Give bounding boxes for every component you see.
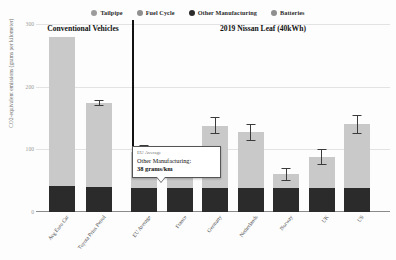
circle-marker-icon [137,10,143,16]
error-bar [353,115,362,134]
bar-segment [344,124,370,188]
bar-column[interactable] [344,124,370,212]
bar-column[interactable] [167,174,193,212]
bar-segment [49,37,75,186]
bar-segment [86,187,112,212]
bar-segment [344,188,370,212]
error-bar [317,149,326,165]
legend-item-other-manufacturing[interactable]: Other Manufacturing [189,9,257,16]
circle-marker-icon [271,10,277,16]
x-tick-label: Netherlands [237,214,258,238]
bar-segment [167,188,193,212]
legend-item-batteries[interactable]: Batteries [271,9,305,16]
y-tick-100: 100 [22,146,34,152]
bars-layer [36,24,390,212]
bar-column[interactable] [86,103,112,212]
error-bar [211,117,220,133]
legend-label: Batteries [280,9,305,16]
x-tick-label: France [173,214,187,229]
error-bar [95,100,104,106]
bar-segment [49,186,75,212]
callout-pointer-icon [157,177,165,182]
x-tick-label: Avg Euro Car [47,214,70,241]
x-tick-label: Toyota Prius Petrol [76,214,106,250]
plot-area: 300 200 100 0 Conventional Vehicles 2019… [36,24,390,212]
y-tick-0: 0 [22,209,34,215]
legend-label: Tailpipe [100,9,122,16]
x-tick-label: Norway [278,214,293,231]
x-tick-label: UK [320,214,330,224]
bar-segment [131,188,157,212]
x-tick-labels: Avg Euro CarToyota Prius PetrolEU Averag… [36,213,390,259]
x-tick-label: Germany [206,214,223,234]
x-tick-label: US [356,214,365,223]
legend-item-tailpipe[interactable]: Tailpipe [91,9,122,16]
legend-label: Fuel Cycle [146,9,175,16]
circle-marker-icon [189,10,195,16]
callout-series: Other Manufacturing: [137,157,215,166]
bar-segment [238,188,264,212]
circle-marker-icon [91,10,97,16]
bar-segment [309,188,335,212]
x-tick-label: EU Average [131,214,152,238]
bar-column[interactable] [309,157,335,212]
legend-item-fuel-cycle[interactable]: Fuel Cycle [137,9,175,16]
error-bar [282,168,291,182]
y-tick-200: 200 [22,84,34,90]
bar-column[interactable] [49,37,75,212]
callout-value: 38 grams/km [137,165,215,174]
legend-label: Other Manufacturing [198,9,257,16]
annotation-callout[interactable]: EU Average Other Manufacturing: 38 grams… [132,146,221,178]
bar-segment [273,188,299,212]
bar-segment [86,103,112,187]
callout-title: EU Average [137,150,215,157]
bar-column[interactable] [238,132,264,212]
y-tick-300: 300 [22,21,34,27]
bar-segment [238,132,264,188]
chart-legend: Tailpipe Fuel Cycle Other Manufacturing … [0,9,396,16]
error-bar [246,124,255,140]
y-axis-label: CO2-equivalent emissions (grams per kilo… [8,19,14,128]
bar-segment [202,188,228,212]
chart-page: Tailpipe Fuel Cycle Other Manufacturing … [0,0,396,260]
